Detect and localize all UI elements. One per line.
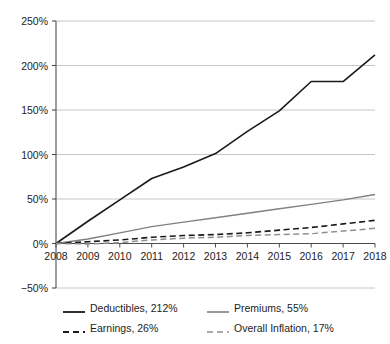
- x-axis-label-2016: 2016: [294, 250, 328, 262]
- legend-row-top: Deductibles, 212% Premiums, 55%: [0, 298, 390, 318]
- legend-label-premiums: Premiums, 55%: [234, 302, 308, 314]
- x-axis-label-2010: 2010: [103, 250, 137, 262]
- legend-row-bottom: Earnings, 26% Overall Inflation, 17%: [0, 318, 390, 338]
- legend-label-deductibles: Deductibles, 212%: [90, 302, 178, 314]
- chart-legend: Deductibles, 212% Premiums, 55% Earnings…: [0, 298, 390, 344]
- x-axis-label-2012: 2012: [167, 250, 201, 262]
- y-axis-label-250: 250%: [0, 15, 48, 27]
- x-axis-label-2015: 2015: [262, 250, 296, 262]
- y-axis-label-50: 50%: [0, 193, 48, 205]
- series-line-deductibles: [56, 55, 375, 244]
- legend-label-overall-inflation: Overall Inflation, 17%: [234, 322, 334, 334]
- y-axis-label-200: 200%: [0, 60, 48, 72]
- legend-item-earnings[interactable]: Earnings, 26%: [51, 322, 199, 334]
- y-axis-label-100: 100%: [0, 149, 48, 161]
- legend-line-swatch-premiums: [207, 303, 229, 313]
- y-axis-label-150: 150%: [0, 104, 48, 116]
- legend-label-earnings: Earnings, 26%: [90, 322, 158, 334]
- x-axis-label-2013: 2013: [199, 250, 233, 262]
- x-axis-label-2017: 2017: [326, 250, 360, 262]
- legend-line-swatch-overall-inflation: [207, 323, 229, 333]
- y-axis-label--50: −50%: [0, 282, 48, 294]
- legend-item-premiums[interactable]: Premiums, 55%: [199, 302, 339, 314]
- y-axis-label-0: 0%: [0, 238, 48, 250]
- x-axis-label-2018: 2018: [358, 250, 390, 262]
- x-axis-label-2014: 2014: [230, 250, 264, 262]
- legend-line-swatch-earnings: [63, 323, 85, 333]
- x-axis-label-2009: 2009: [71, 250, 105, 262]
- x-axis-label-2008: 2008: [39, 250, 73, 262]
- legend-item-deductibles[interactable]: Deductibles, 212%: [51, 302, 199, 314]
- legend-line-swatch-deductibles: [63, 303, 85, 313]
- x-axis-label-2011: 2011: [135, 250, 169, 262]
- series-line-premiums: [56, 195, 375, 244]
- chart-container: 250%200%150%100%50%0%−50% 20082009201020…: [0, 0, 390, 344]
- legend-item-overall-inflation[interactable]: Overall Inflation, 17%: [199, 322, 339, 334]
